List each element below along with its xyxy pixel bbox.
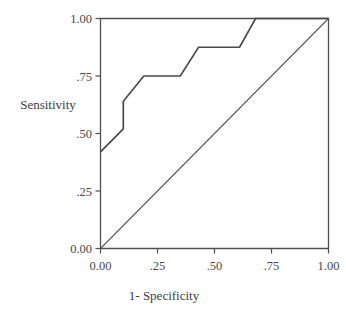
x-axis-tick-labels: 0.00 .25 .50 .75 1.00: [90, 259, 340, 273]
x-axis-title: 1- Specificity: [129, 288, 200, 303]
x-tick-label-0-00: 0.00: [90, 259, 112, 273]
y-axis-ticks: [96, 19, 101, 249]
y-tick-label-0-50: .50: [76, 127, 92, 141]
y-axis-title: Sensitivity: [20, 97, 76, 112]
y-tick-label-0-25: .25: [76, 185, 92, 199]
reference-diagonal-line: [101, 19, 329, 249]
roc-chart: 1.00 .75 .50 .25 0.00 0.00 .25 .50 .75 1…: [0, 0, 346, 312]
x-tick-label-0-50: .50: [207, 259, 223, 273]
y-tick-label-1-00: 1.00: [70, 12, 92, 26]
x-tick-label-1-00: 1.00: [318, 259, 340, 273]
x-tick-label-0-25: .25: [150, 259, 166, 273]
y-axis-tick-labels: 1.00 .75 .50 .25 0.00: [70, 12, 92, 256]
roc-chart-svg: 1.00 .75 .50 .25 0.00 0.00 .25 .50 .75 1…: [0, 0, 346, 312]
roc-curve-line: [101, 19, 329, 152]
x-tick-label-0-75: .75: [264, 259, 280, 273]
x-axis-ticks: [101, 249, 329, 254]
y-tick-label-0-75: .75: [76, 70, 92, 84]
y-tick-label-0-00: 0.00: [70, 242, 92, 256]
